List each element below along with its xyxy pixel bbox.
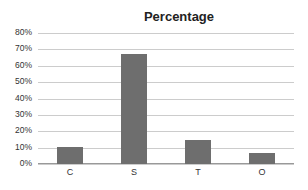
bar-C	[57, 147, 83, 164]
y-tick-label: 10%	[0, 142, 32, 152]
gridline	[38, 82, 294, 83]
gridline	[38, 99, 294, 100]
gridline	[38, 49, 294, 50]
x-tick-label: S	[121, 167, 147, 177]
gridline	[38, 115, 294, 116]
y-tick-label: 30%	[0, 109, 32, 119]
x-tick-label: T	[185, 167, 211, 177]
x-tick-label: C	[57, 167, 83, 177]
chart-title: Percentage	[0, 9, 308, 24]
y-tick-label: 40%	[0, 93, 32, 103]
y-tick-label: 70%	[0, 43, 32, 53]
y-tick-label: 0%	[0, 158, 32, 168]
gridline	[38, 33, 294, 34]
plot-area: 0%10%20%30%40%50%60%70%80%CSTO	[38, 33, 294, 164]
gridline	[38, 164, 294, 165]
bar-O	[249, 153, 275, 164]
y-tick-label: 50%	[0, 76, 32, 86]
gridline	[38, 131, 294, 132]
y-tick-label: 20%	[0, 125, 32, 135]
y-tick-label: 80%	[0, 27, 32, 37]
gridline	[38, 66, 294, 67]
bar-T	[185, 140, 211, 164]
y-tick-label: 60%	[0, 60, 32, 70]
x-tick-label: O	[249, 167, 275, 177]
bar-S	[121, 54, 147, 164]
